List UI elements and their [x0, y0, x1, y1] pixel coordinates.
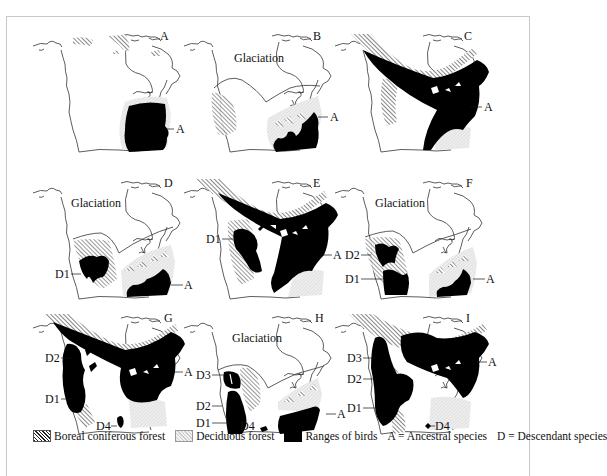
label-ancestral: A: [488, 355, 497, 369]
map-panel-a: A A: [33, 28, 198, 156]
label-descendant: D2: [345, 248, 360, 262]
label-descendant: D3: [347, 351, 362, 365]
glaciation-label: Glaciation: [375, 196, 425, 210]
label-descendant: D3: [196, 368, 211, 382]
label-descendant: D2: [45, 351, 60, 365]
panel-letter-h: H: [315, 311, 324, 325]
legend-item-descendant: D = Descendant species: [497, 430, 607, 442]
panel-letter-g: G: [164, 311, 173, 325]
map-panel-g: G D2 D1 D4 A: [33, 310, 198, 438]
panel-letter-f: F: [466, 176, 473, 190]
label-ancestral: A: [484, 100, 493, 114]
legend-label-ancestral: A = Ancestral species: [388, 430, 487, 442]
legend-item-boreal: Boreal coniferous forest: [33, 430, 165, 442]
map-panel-b: Glaciation B A: [184, 28, 349, 156]
range-solid-swatch-icon: [284, 430, 302, 442]
legend-item-ancestral: A = Ancestral species: [388, 430, 487, 442]
map-panel-d: Glaciation D D1 A: [33, 175, 198, 303]
label-descendant: D1: [55, 267, 70, 281]
legend-item-ranges: Ranges of birds: [284, 430, 377, 442]
label-descendant: D1: [45, 392, 60, 406]
legend-label-descendant: D = Descendant species: [497, 430, 607, 442]
legend: Boreal coniferous forest Deciduous fores…: [33, 428, 513, 444]
legend-label-boreal: Boreal coniferous forest: [54, 430, 165, 442]
legend-label-deciduous: Deciduous forest: [196, 430, 274, 442]
label-ancestral: A: [486, 272, 495, 286]
deciduous-hatch-swatch-icon: [175, 430, 193, 442]
boreal-hatch-swatch-icon: [33, 430, 51, 442]
map-panel-h: Glaciation H D3 D2 D1 D4 A: [184, 310, 349, 438]
legend-label-ranges: Ranges of birds: [305, 430, 377, 442]
label-descendant: D1: [345, 272, 360, 286]
map-panel-e: E D1 A: [184, 175, 349, 303]
panel-letter-c: C: [464, 29, 472, 43]
label-descendant: D2: [347, 372, 362, 386]
legend-item-deciduous: Deciduous forest: [175, 430, 274, 442]
map-panel-i: I D3 D2 D1 D4 A: [335, 310, 500, 438]
glaciation-label: Glaciation: [232, 331, 282, 345]
panel-letter-d: D: [164, 176, 173, 190]
label-descendant: D1: [206, 232, 221, 246]
panel-letter-b: B: [313, 29, 321, 43]
label-descendant: D2: [196, 399, 211, 413]
glaciation-label: Glaciation: [71, 196, 121, 210]
glaciation-label: Glaciation: [234, 51, 284, 65]
map-panel-c: C A: [335, 28, 500, 156]
map-panel-f: Glaciation F D2 D1 A: [335, 175, 500, 303]
panel-letter-i: I: [466, 311, 470, 325]
panel-letter-a: A: [160, 29, 169, 43]
panel-letter-e: E: [313, 176, 320, 190]
label-descendant: D1: [347, 401, 362, 415]
